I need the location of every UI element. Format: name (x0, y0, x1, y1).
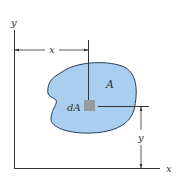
region-a-shape (48, 63, 137, 133)
x-axis-label: x (166, 163, 172, 174)
area-element-diagram: y x x y A dA (0, 0, 183, 186)
element-da-square (84, 100, 95, 111)
element-da-label: dA (67, 102, 81, 113)
y-axis-label: y (10, 17, 17, 28)
y-dimension-label: y (137, 132, 144, 143)
region-a-label: A (105, 78, 114, 91)
x-dimension-label: x (49, 44, 55, 55)
diagram-svg: y x x y A dA (0, 0, 183, 186)
